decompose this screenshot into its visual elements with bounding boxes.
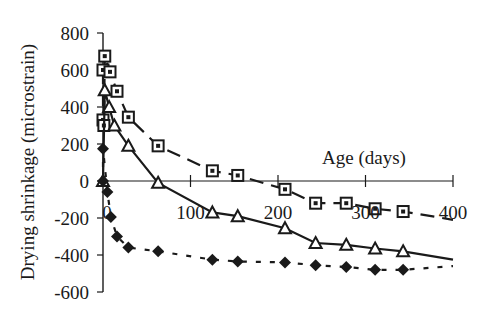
x-tick-label: 300 <box>351 202 380 223</box>
y-tick-label: 400 <box>61 97 90 118</box>
y-tick-label: -400 <box>54 245 89 266</box>
diamond-marker <box>369 264 381 276</box>
y-tick-label: -200 <box>54 208 89 229</box>
diamond-marker <box>232 255 244 267</box>
diamond-marker <box>310 259 322 271</box>
triangle-series-line <box>103 90 453 259</box>
y-tick-label: 800 <box>61 23 90 44</box>
y-axis-title: Drying shrinkage (microstrain) <box>17 44 39 280</box>
diamond-marker <box>206 254 218 266</box>
chart-container: 8006004002000-200-400-6000100200300400 D… <box>0 0 485 320</box>
x-axis-title: Age (days) <box>322 147 406 169</box>
x-tick-label: 200 <box>264 202 293 223</box>
triangle-series <box>97 84 453 259</box>
x-tick-label: 400 <box>439 202 468 223</box>
line-chart: 8006004002000-200-400-6000100200300400 D… <box>0 0 485 320</box>
square-series-line <box>103 56 453 220</box>
square-series <box>98 51 454 220</box>
diamond-marker <box>397 264 409 276</box>
triangle-marker <box>99 84 111 95</box>
y-tick-label: 200 <box>61 134 90 155</box>
diamond-marker <box>152 245 164 257</box>
diamond-marker <box>122 242 134 254</box>
diamond-marker <box>340 261 352 273</box>
y-tick-label: -600 <box>54 282 89 303</box>
y-tick-label: 600 <box>61 60 90 81</box>
y-tick-label: 0 <box>80 171 90 192</box>
x-tick-label: 0 <box>102 202 112 223</box>
x-tick-label: 100 <box>176 202 205 223</box>
diamond-marker <box>279 256 291 268</box>
